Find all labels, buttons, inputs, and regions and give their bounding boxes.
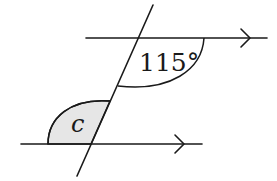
transversal-line <box>77 5 153 176</box>
angle-115-label: 115° <box>139 48 199 77</box>
parallel-lines-diagram: 115° c <box>0 0 277 181</box>
angle-c-label: c <box>71 110 84 138</box>
